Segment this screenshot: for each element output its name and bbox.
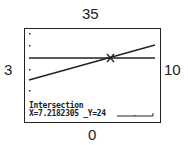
intersection-coordinates: X=7.2182305 _Y=24 <box>29 110 106 118</box>
window-ymax-label: 35 <box>82 6 99 21</box>
calculator-graph-screen: Intersection X=7.2182305 _Y=24 <box>24 28 161 123</box>
window-xmin-label: 3 <box>4 62 12 77</box>
window-xmax-label: 10 <box>164 62 181 77</box>
sloped-line-y2 <box>29 45 155 80</box>
y-axis-ticks <box>29 33 31 92</box>
readout-underline <box>117 113 153 116</box>
window-ymin-label: 0 <box>88 127 96 142</box>
